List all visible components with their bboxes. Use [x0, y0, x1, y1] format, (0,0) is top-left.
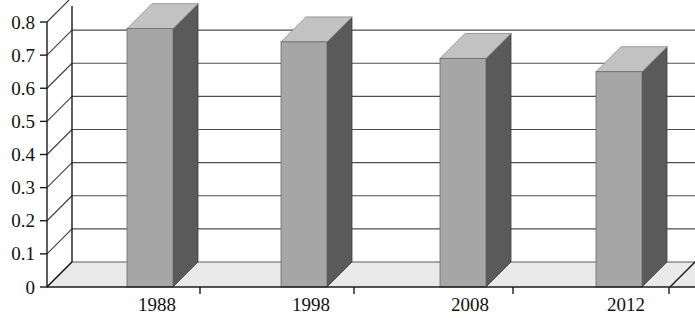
bar-front-face [127, 29, 173, 287]
gridline-depth-connector [47, 0, 72, 22]
y-axis-tick-label: 0.5 [11, 111, 35, 132]
gridline-depth-connector [47, 30, 72, 55]
bar-column [596, 47, 667, 287]
bar-front-face [596, 72, 642, 287]
y-axis-tick-label: 0 [26, 277, 36, 298]
bar-front-face [281, 42, 327, 287]
y-tick-group: 0.80.70.60.50.40.30.20.10 [11, 12, 47, 298]
y-axis-tick-label: 0.2 [11, 210, 35, 231]
gridline-depth-connector [47, 196, 72, 221]
y-axis-tick-label: 0.8 [11, 12, 35, 33]
bar-side-face [327, 17, 352, 287]
gridline-depth-connector [47, 130, 72, 155]
bar-column [281, 17, 352, 287]
x-axis-category-label: 1988 [138, 294, 176, 315]
bar-column [127, 4, 198, 287]
bar-front-face [440, 58, 486, 287]
bar-chart-figure: 0.80.70.60.50.40.30.20.10 19881998200820… [0, 0, 695, 318]
gridline-depth-connector [47, 229, 72, 254]
gridline-depth-connector [47, 63, 72, 88]
x-axis-category-label: 2012 [607, 294, 645, 315]
gridline-depth-connector [47, 163, 72, 188]
y-axis-tick-label: 0.7 [11, 45, 35, 66]
y-axis-tick-label: 0.1 [11, 243, 35, 264]
x-axis-category-label: 1998 [292, 294, 330, 315]
bar-side-face [642, 47, 667, 287]
y-axis-tick-label: 0.3 [11, 177, 35, 198]
x-label-group: 1988199820082012 [138, 294, 645, 315]
bar-side-face [486, 33, 511, 287]
gridline-depth-connector [47, 96, 72, 121]
y-axis-tick-label: 0.6 [11, 78, 35, 99]
bar-column [440, 33, 511, 287]
chart-canvas: 0.80.70.60.50.40.30.20.10 19881998200820… [0, 0, 695, 318]
depth-connector-group [47, 0, 72, 287]
x-axis-category-label: 2008 [451, 294, 489, 315]
bar-side-face [173, 4, 198, 287]
x-tick-group [200, 287, 669, 294]
y-axis-tick-label: 0.4 [11, 144, 35, 165]
